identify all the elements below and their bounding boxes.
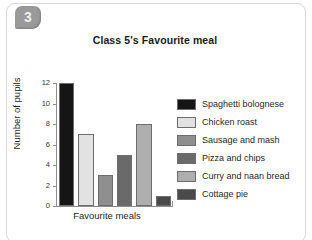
y-tick-label: 4	[34, 161, 50, 169]
legend-swatch	[177, 153, 196, 164]
bar	[117, 155, 133, 206]
legend-item: Pizza and chips	[177, 149, 290, 167]
legend-label: Pizza and chips	[202, 153, 265, 163]
legend-swatch	[177, 171, 196, 182]
legend-item: Sausage and mash	[177, 131, 290, 149]
chart-legend: Spaghetti bologneseChicken roastSausage …	[177, 95, 290, 203]
legend-label: Curry and naan bread	[202, 171, 290, 181]
legend-label: Spaghetti bolognese	[202, 99, 284, 109]
bar	[59, 83, 75, 206]
y-tick-mark	[53, 145, 56, 146]
y-tick-label: 2	[34, 182, 50, 190]
y-tick-mark	[53, 186, 56, 187]
bar	[136, 124, 152, 206]
y-tick-mark	[53, 165, 56, 166]
legend-item: Cottage pie	[177, 185, 290, 203]
y-tick-label: 10	[34, 100, 50, 108]
x-axis-line	[56, 206, 173, 207]
x-axis-label: Favourite meals	[43, 210, 171, 221]
legend-label: Chicken roast	[202, 117, 257, 127]
legend-item: Spaghetti bolognese	[177, 95, 290, 113]
bar	[156, 196, 172, 206]
legend-swatch	[177, 189, 196, 200]
y-tick-label: 0	[34, 202, 50, 210]
legend-item: Chicken roast	[177, 113, 290, 131]
y-tick-label: 12	[34, 79, 50, 87]
bar	[78, 134, 94, 206]
y-axis-label: Number of pupils	[11, 64, 22, 164]
bar-series	[57, 83, 173, 206]
y-tick-label: 8	[34, 120, 50, 128]
legend-swatch	[177, 99, 196, 110]
bar	[98, 175, 114, 206]
legend-label: Cottage pie	[202, 189, 248, 199]
y-tick-mark	[53, 206, 56, 207]
y-tick-label: 6	[34, 141, 50, 149]
bar-chart: Number of pupils Favourite meals 0246810…	[0, 0, 312, 230]
legend-item: Curry and naan bread	[177, 167, 290, 185]
y-tick-mark	[53, 104, 56, 105]
legend-swatch	[177, 135, 196, 146]
legend-swatch	[177, 117, 196, 128]
y-tick-mark	[53, 124, 56, 125]
y-tick-mark	[53, 83, 56, 84]
legend-label: Sausage and mash	[202, 135, 280, 145]
